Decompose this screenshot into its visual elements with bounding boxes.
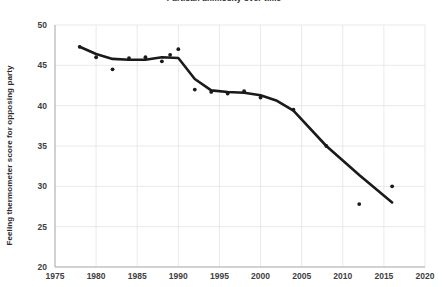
y-tick-label: 25 <box>38 222 48 232</box>
data-point <box>176 47 180 51</box>
data-point <box>127 56 131 60</box>
data-point <box>193 88 197 92</box>
x-tick-label: 1975 <box>46 271 65 281</box>
data-point <box>324 144 328 148</box>
chart-page: Partisan animosity over time Feeling the… <box>0 0 448 287</box>
x-tick-label: 2005 <box>292 271 311 281</box>
scatter-point-series <box>78 45 394 206</box>
y-tick-label: 30 <box>38 181 48 191</box>
x-tick-label: 2020 <box>416 271 435 281</box>
data-point <box>390 184 394 188</box>
data-point <box>357 202 361 206</box>
y-tick-label: 40 <box>38 101 48 111</box>
trend-line-series <box>80 47 392 203</box>
x-tick-label: 1995 <box>210 271 229 281</box>
y-tick-labels: 20253035404550 <box>38 20 48 272</box>
y-tick-label: 35 <box>38 141 48 151</box>
data-point <box>209 90 213 94</box>
data-point <box>111 67 115 71</box>
x-tick-label: 2010 <box>333 271 352 281</box>
chart-plot-area: 20253035404550 1975198019851990199520002… <box>0 0 448 287</box>
data-point <box>292 108 296 112</box>
data-point <box>168 53 172 57</box>
data-point <box>160 59 164 63</box>
x-tick-label: 2000 <box>251 271 270 281</box>
x-tick-label: 1990 <box>169 271 188 281</box>
x-tick-label: 1980 <box>87 271 106 281</box>
data-point <box>226 92 230 96</box>
data-point <box>94 55 98 59</box>
x-tick-label: 1985 <box>128 271 147 281</box>
data-point <box>144 55 148 59</box>
grid-lines <box>55 25 425 267</box>
trend-line-path <box>80 47 392 203</box>
x-tick-label: 2015 <box>374 271 393 281</box>
x-tick-labels: 1975198019851990199520002005201020152020 <box>46 271 435 281</box>
data-point <box>242 89 246 93</box>
data-point <box>259 96 263 100</box>
y-tick-label: 45 <box>38 60 48 70</box>
y-tick-label: 50 <box>38 20 48 30</box>
data-point <box>78 45 82 49</box>
